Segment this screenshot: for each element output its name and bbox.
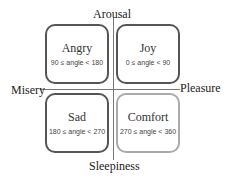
quadrant-range: 180 ≤ angle < 270 bbox=[49, 128, 105, 135]
quadrant-range: 0 ≤ angle < 90 bbox=[126, 59, 171, 66]
axis-label-arousal: Arousal bbox=[93, 8, 131, 20]
quadrant-angry: Angry 90 ≤ angle < 180 bbox=[45, 24, 109, 84]
quadrant-name: Angry bbox=[62, 42, 93, 54]
quadrant-range: 270 ≤ angle < 360 bbox=[120, 128, 176, 135]
quadrant-name: Joy bbox=[140, 42, 157, 54]
axis-label-sleepiness: Sleepiness bbox=[89, 160, 140, 172]
quadrant-sad: Sad 180 ≤ angle < 270 bbox=[45, 93, 109, 153]
axis-label-pleasure: Pleasure bbox=[180, 82, 221, 94]
quadrant-range: 90 ≤ angle < 180 bbox=[51, 59, 103, 66]
quadrant-joy: Joy 0 ≤ angle < 90 bbox=[116, 24, 180, 84]
quadrant-name: Comfort bbox=[128, 111, 169, 123]
axis-label-misery: Misery bbox=[11, 84, 45, 96]
quadrant-name: Sad bbox=[68, 111, 86, 123]
horizontal-axis-line bbox=[40, 89, 180, 90]
quadrant-comfort: Comfort 270 ≤ angle < 360 bbox=[116, 93, 180, 153]
